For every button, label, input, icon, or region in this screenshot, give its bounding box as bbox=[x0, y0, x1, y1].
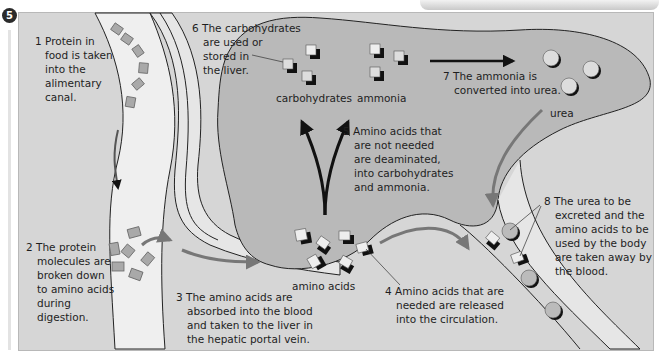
step-7-caption: 7 The ammonia is converted into urea. bbox=[443, 69, 561, 97]
flow-arrow-release bbox=[380, 228, 468, 248]
label-urea: urea bbox=[550, 106, 574, 120]
step-5-caption: 5 Amino acids that are not needed are de… bbox=[343, 124, 453, 194]
step-2-caption: 2 The protein molecules are broken down … bbox=[26, 240, 114, 324]
step-8-caption: 8 The urea to be excreted and the amino … bbox=[544, 194, 652, 278]
label-ammonia: ammonia bbox=[357, 91, 406, 105]
step-1-caption: 1 Protein in food is taken into the alim… bbox=[35, 34, 113, 104]
step-4-caption: 4 Amino acids that are needed are releas… bbox=[385, 284, 504, 326]
label-carbohydrates: carbohydrates bbox=[276, 91, 352, 105]
leader-line-4 bbox=[366, 249, 400, 285]
step-3-caption: 3 The amino acids are absorbed into the … bbox=[176, 290, 313, 346]
step-6-caption: 6 The carbohydrates are used or stored i… bbox=[192, 21, 301, 77]
label-amino-acids: amino acids bbox=[292, 279, 355, 293]
